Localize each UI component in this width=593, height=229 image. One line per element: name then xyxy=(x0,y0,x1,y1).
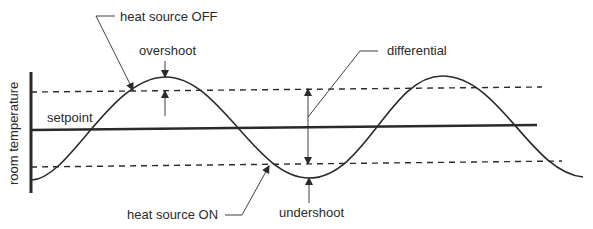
setpoint-line xyxy=(31,125,537,130)
upper-limit-dashed-line xyxy=(31,87,542,92)
differential-leader xyxy=(308,51,378,117)
heat-source-on-label: heat source ON xyxy=(127,207,218,222)
heat-source-on-leader xyxy=(225,166,269,215)
undershoot-label: undershoot xyxy=(279,205,344,220)
setpoint-label: setpoint xyxy=(47,110,93,125)
heat-source-off-label: heat source OFF xyxy=(120,9,218,24)
lower-limit-dashed-line xyxy=(31,161,562,167)
thermostat-diagram: room temperature setpoint heat source OF… xyxy=(0,0,593,229)
y-axis-label: room temperature xyxy=(6,82,21,185)
heat-source-off-leader xyxy=(96,16,133,90)
overshoot-label: overshoot xyxy=(139,43,196,58)
differential-label: differential xyxy=(387,43,447,58)
